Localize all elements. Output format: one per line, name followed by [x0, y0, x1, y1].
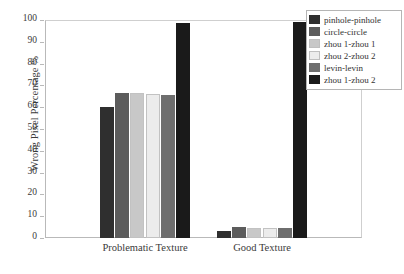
y-axis-tick-label: 0 [32, 231, 37, 242]
y-axis-tick: 10 [0, 216, 44, 217]
y-axis-tick: 20 [0, 194, 44, 195]
legend-item: zhou 1-zhou 1 [309, 38, 398, 50]
bar [247, 228, 261, 238]
bar [115, 93, 129, 238]
legend-item-label: zhou 2-zhou 2 [324, 51, 376, 61]
y-axis-tick-mark [40, 85, 44, 86]
bar [161, 95, 175, 238]
y-axis-tick-mark [40, 42, 44, 43]
bar-chart-figure: Wrong Pixel Percentage % 010203040506070… [0, 0, 404, 274]
y-axis-tick-label: 80 [28, 57, 38, 68]
bar [263, 228, 277, 238]
legend-color-swatch [309, 39, 320, 48]
legend-item-label: levin-levin [324, 63, 363, 73]
y-axis-tick-label: 30 [28, 166, 38, 177]
legend-item-label: zhou 1-zhou 2 [324, 75, 376, 85]
y-axis-tick-mark [40, 20, 44, 21]
y-axis-tick-label: 10 [28, 209, 38, 220]
bar [232, 227, 246, 238]
y-axis-tick-mark [40, 64, 44, 65]
bar [130, 93, 144, 238]
legend-color-swatch [309, 51, 320, 60]
y-axis-tick-label: 90 [28, 35, 38, 46]
y-axis-tick-mark [40, 151, 44, 152]
y-axis-tick-mark [40, 238, 44, 239]
y-axis-tick: 90 [0, 42, 44, 43]
legend-item: pinhole-pinhole [309, 14, 398, 26]
legend-item: zhou 2-zhou 2 [309, 50, 398, 62]
bar [100, 107, 114, 238]
legend-item-label: pinhole-pinhole [324, 15, 381, 25]
bar [293, 22, 307, 238]
y-axis-tick: 0 [0, 238, 44, 239]
bar [176, 23, 190, 238]
y-axis-tick-label: 100 [23, 13, 37, 24]
bar [217, 231, 231, 238]
y-axis-tick-mark [40, 216, 44, 217]
y-axis-tick-label: 50 [28, 122, 38, 133]
y-axis-tick-label: 60 [28, 100, 38, 111]
y-axis-tick: 50 [0, 129, 44, 130]
y-axis-tick-mark [40, 107, 44, 108]
bar [146, 94, 160, 238]
y-axis-tick: 60 [0, 107, 44, 108]
x-axis-category-label: Good Texture [182, 242, 342, 253]
y-axis-tick: 80 [0, 64, 44, 65]
legend-item-label: circle-circle [324, 27, 367, 37]
legend-color-swatch [309, 27, 320, 36]
y-axis-tick: 40 [0, 151, 44, 152]
legend-item-label: zhou 1-zhou 1 [324, 39, 376, 49]
legend-color-swatch [309, 63, 320, 72]
legend-color-swatch [309, 75, 320, 84]
y-axis-tick: 30 [0, 173, 44, 174]
y-axis-tick-mark [40, 194, 44, 195]
bar [278, 228, 292, 238]
y-axis-tick: 100 [0, 20, 44, 21]
y-axis-tick-mark [40, 173, 44, 174]
legend-color-swatch [309, 15, 320, 24]
legend-item: circle-circle [309, 26, 398, 38]
y-axis-tick: 70 [0, 85, 44, 86]
chart-legend: pinhole-pinholecircle-circlezhou 1-zhou … [306, 10, 402, 90]
legend-item: levin-levin [309, 62, 398, 74]
y-axis-tick-mark [40, 129, 44, 130]
y-axis-tick-label: 40 [28, 144, 38, 155]
legend-item: zhou 1-zhou 2 [309, 74, 398, 86]
y-axis-tick-label: 20 [28, 187, 38, 198]
y-axis-tick-label: 70 [28, 78, 38, 89]
